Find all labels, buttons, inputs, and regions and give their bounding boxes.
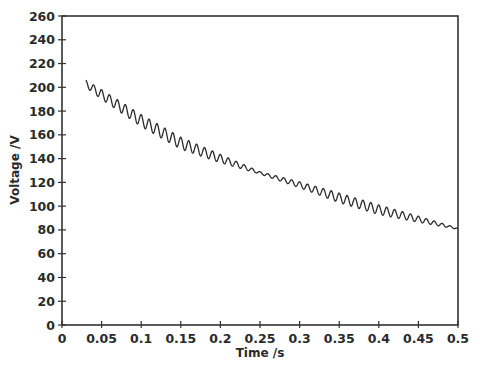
x-tick-label: 0.2 [209,331,231,346]
x-tick-label: 0.45 [403,331,434,346]
x-tick-label: 0.05 [86,331,117,346]
y-axis: 020406080100120140160180200220240260 [29,9,66,333]
y-tick-label: 200 [29,80,55,95]
x-tick-label: 0.25 [245,331,276,346]
y-tick-label: 0 [46,318,55,333]
y-tick-label: 260 [29,9,55,24]
y-tick-label: 20 [38,294,56,309]
y-tick-label: 140 [29,151,55,166]
y-tick-label: 100 [29,199,55,214]
y-tick-label: 120 [29,175,55,190]
x-tick-label: 0 [58,331,67,346]
y-tick-label: 80 [38,222,56,237]
x-axis-title: Time /s [236,346,285,360]
y-tick-label: 40 [38,270,56,285]
y-tick-label: 160 [29,127,55,142]
x-tick-label: 0.3 [289,331,311,346]
voltage-series-line [86,80,458,228]
y-tick-label: 60 [38,246,56,261]
y-tick-label: 240 [29,32,55,47]
voltage-time-chart: 020406080100120140160180200220240260 00.… [0,0,480,377]
x-tick-label: 0.1 [130,331,152,346]
y-tick-label: 220 [29,56,55,71]
x-tick-label: 0.15 [165,331,196,346]
plot-frame [62,16,458,325]
y-tick-label: 180 [29,104,55,119]
x-tick-label: 0.5 [447,331,469,346]
x-tick-label: 0.35 [324,331,355,346]
x-tick-label: 0.4 [368,331,390,346]
y-axis-title: Voltage /V [8,135,22,205]
